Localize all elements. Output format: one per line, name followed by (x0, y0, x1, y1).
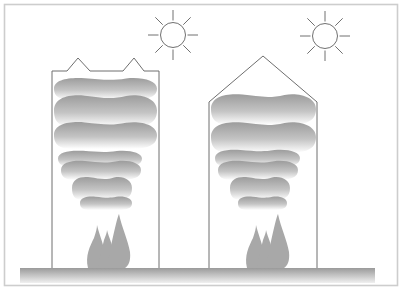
smoke-cloud (211, 122, 316, 153)
smoke-cloud (230, 177, 290, 200)
smoke-cloud (54, 95, 157, 127)
smoke-cloud (54, 122, 157, 149)
smoke-cloud (72, 177, 132, 200)
ground-bar (20, 268, 375, 283)
sun-disc (161, 23, 186, 48)
sun-icon (148, 10, 198, 60)
smoke-cloud (211, 94, 316, 125)
smoke-cloud (238, 197, 287, 210)
sun-icon (300, 11, 350, 61)
sun-disc (313, 24, 338, 49)
smoke-cloud (80, 197, 132, 210)
smoke-cloud (61, 161, 141, 180)
smoke-cloud (218, 161, 298, 180)
smoke-diagram (0, 0, 402, 290)
